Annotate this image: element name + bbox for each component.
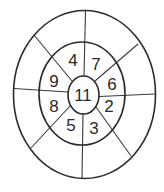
ring-diagram: 47623589 11 [0,0,164,192]
divider-line-bottom [82,114,83,178]
ring-number-right-lower: 2 [104,97,113,116]
ring-number-top-left: 4 [68,51,77,70]
ring-number-left-lower: 8 [49,97,58,116]
center-number: 11 [74,86,92,105]
divider-line-left [14,89,68,93]
ring-number-left-upper: 9 [49,72,58,91]
ring-number-right-upper: 6 [107,75,116,94]
ring-number-bottom-right: 3 [89,119,98,138]
ring-number-top-right: 7 [91,55,100,74]
divider-line-top [84,11,86,76]
ring-diagram-canvas: 47623589 11 [0,0,164,192]
ring-number-bottom-left: 5 [66,116,75,135]
